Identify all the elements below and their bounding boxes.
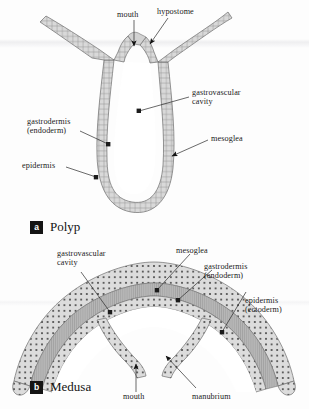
label-polyp-mouth: mouth (117, 10, 138, 19)
label-polyp-epidermis: epidermis (22, 161, 55, 170)
dot-polyp-epidermis (94, 175, 98, 179)
polyp-organism (40, 12, 232, 213)
figure-page: mouth hypostome gastrovascular cavity me… (0, 0, 309, 409)
dot-polyp-gastrodermis (106, 142, 110, 146)
panel-tag-letter-a: a (30, 221, 43, 234)
dot-medusa-epidermis (220, 330, 224, 334)
panel-tag-polyp: a Polyp (30, 219, 80, 235)
medusa-organism (13, 262, 296, 395)
polyp-tentacle-right (158, 12, 232, 62)
dot-medusa-mesoglea (155, 288, 159, 292)
label-polyp-hypostome: hypostome (157, 7, 194, 16)
panel-title-polyp: Polyp (50, 219, 80, 235)
leader-polyp-mesoglea (172, 140, 208, 156)
leader-polyp-epidermis (66, 167, 96, 177)
dot-polyp-gvc (137, 109, 141, 113)
label-medusa-mouth: mouth (123, 392, 144, 401)
leader-polyp-hypostome (150, 18, 168, 44)
dot-medusa-gastrodermis (176, 298, 180, 302)
label-polyp-mesoglea: mesoglea (211, 134, 243, 143)
dot-medusa-gvc (108, 310, 112, 314)
polyp-gastrovascular-cavity (114, 62, 156, 194)
panel-tag-letter-b: b (30, 381, 43, 394)
anatomy-illustration (0, 0, 309, 409)
panel-tag-medusa: b Medusa (30, 379, 91, 395)
label-medusa-manubrium: manubrium (192, 392, 231, 401)
panel-title-medusa: Medusa (50, 379, 91, 395)
label-medusa-mesoglea: mesoglea (176, 246, 208, 255)
polyp-tentacle-left (40, 16, 114, 60)
